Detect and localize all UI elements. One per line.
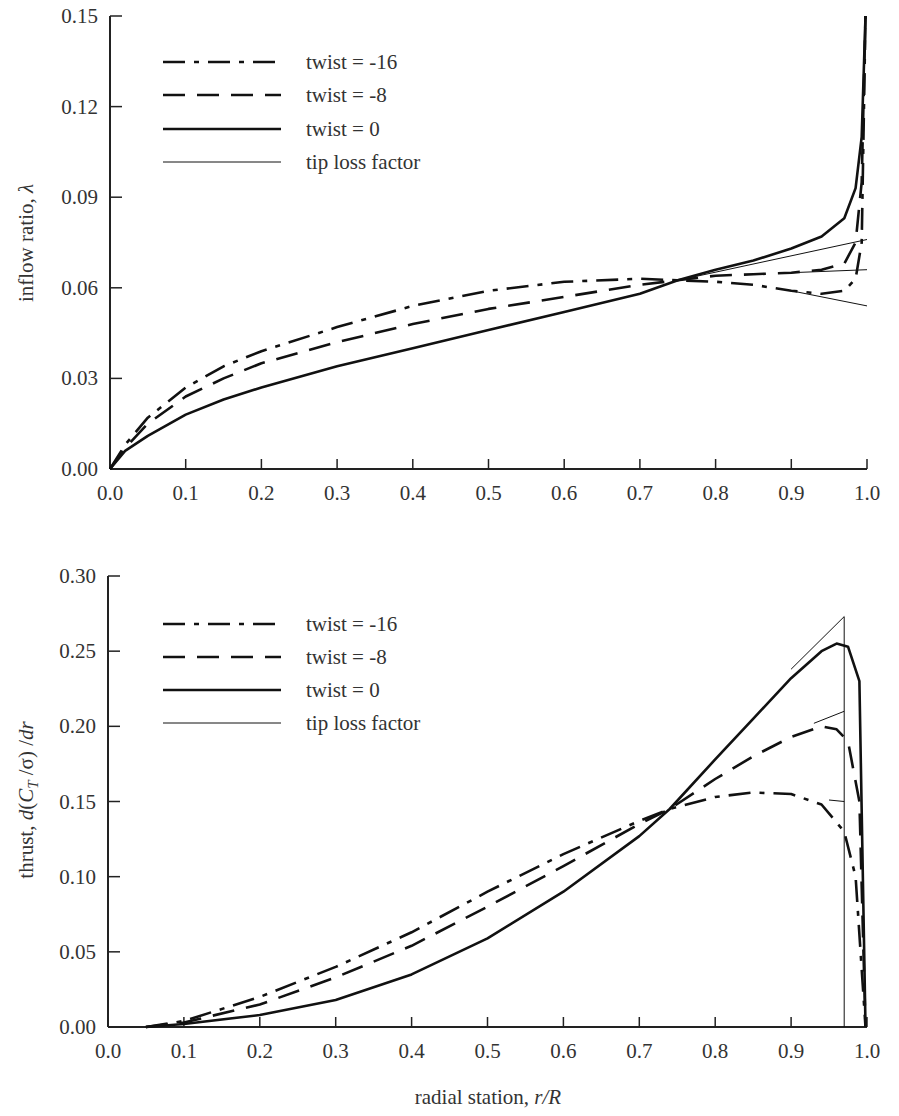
x-tick-label: 0.1 (171, 1039, 197, 1063)
y-tick-label: 0.10 (59, 865, 96, 889)
x-tick-label: 0.7 (626, 1039, 652, 1063)
x-tick-label: 0.8 (702, 481, 728, 505)
x-tick-label: 0.6 (551, 481, 577, 505)
x-tick-label: 0.2 (247, 1039, 273, 1063)
series-twist-0 (146, 644, 866, 1027)
x-tick-label: 0.0 (95, 1039, 121, 1063)
x-tick-label: 0.2 (248, 481, 274, 505)
x-tick-label: 0.0 (97, 481, 123, 505)
x-tick-label: 1.0 (854, 1039, 880, 1063)
series-twist-8 (110, 16, 866, 469)
legend-label: twist = -16 (306, 50, 397, 74)
y-tick-label: 0.06 (61, 276, 98, 300)
legend-label: tip loss factor (306, 150, 420, 174)
series-twist-16 (146, 793, 866, 1028)
x-tick-label: 0.7 (627, 481, 653, 505)
x-tick-label: 0.1 (173, 481, 199, 505)
x-tick-label: 0.8 (702, 1039, 728, 1063)
x-tick-label: 0.9 (778, 1039, 804, 1063)
x-tick-label: 0.5 (475, 481, 501, 505)
x-tick-label: 0.4 (400, 481, 427, 505)
series-twist-8 (146, 726, 866, 1027)
y-tick-label: 0.09 (61, 185, 98, 209)
figure: 0.00.10.20.30.40.50.60.70.80.91.00.000.0… (0, 0, 899, 1116)
y-tick-label: 0.20 (59, 714, 96, 738)
legend-label: twist = -16 (306, 612, 397, 636)
legend-label: tip loss factor (306, 711, 420, 735)
y-tick-label: 0.25 (59, 639, 96, 663)
x-tick-label: 0.6 (550, 1039, 576, 1063)
x-tick-label: 0.9 (778, 481, 804, 505)
x-tick-label: 0.3 (324, 481, 350, 505)
x-tick-label: 1.0 (854, 481, 880, 505)
y-tick-label: 0.05 (59, 940, 96, 964)
bottom-y-axis-label: thrust, d(CT /σ) /dr (14, 721, 41, 879)
series-twist-0 (110, 16, 866, 469)
y-tick-label: 0.15 (59, 790, 96, 814)
x-tick-label: 0.3 (323, 1039, 349, 1063)
bottom-x-axis-label: radial station, r/R (415, 1085, 562, 1109)
y-tick-label: 0.12 (61, 95, 98, 119)
y-tick-label: 0.00 (59, 1015, 96, 1039)
legend-label: twist = 0 (306, 678, 380, 702)
series-tip-loss-factor (791, 617, 844, 1027)
series-twist-16 (110, 16, 866, 469)
x-tick-label: 0.4 (398, 1039, 425, 1063)
y-tick-label: 0.30 (59, 564, 96, 588)
legend-label: twist = -8 (306, 83, 387, 107)
x-tick-label: 0.5 (474, 1039, 500, 1063)
legend-label: twist = -8 (306, 645, 387, 669)
thrust-chart: 0.00.10.20.30.40.50.60.70.80.91.00.000.0… (59, 564, 880, 1063)
legend-label: twist = 0 (306, 117, 380, 141)
top-y-axis-label: inflow ratio, λ (14, 184, 38, 302)
y-tick-label: 0.15 (61, 4, 98, 28)
y-tick-label: 0.03 (61, 366, 98, 390)
inflow-ratio-chart: 0.00.10.20.30.40.50.60.70.80.91.00.000.0… (61, 4, 880, 505)
y-tick-label: 0.00 (61, 457, 98, 481)
